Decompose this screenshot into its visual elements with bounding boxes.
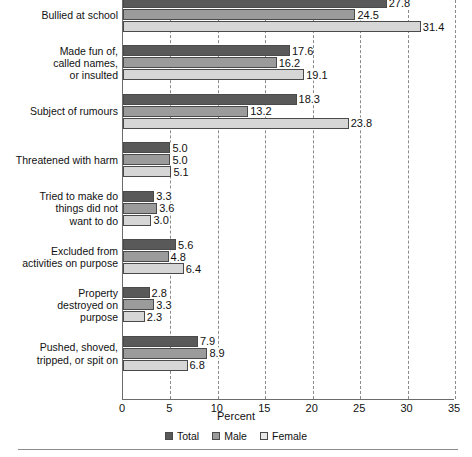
category-label: Threatened with harm [0, 154, 118, 166]
bar-total [123, 336, 198, 347]
bar-value-label: 5.0 [170, 154, 187, 165]
bar-value-label: 6.4 [184, 263, 201, 274]
bar-value-label: 7.9 [198, 336, 215, 347]
x-axis-title: Percent [0, 410, 472, 422]
bar-row: 2.3 [123, 311, 454, 322]
bar-row: 3.0 [123, 215, 454, 226]
bar-row: 3.3 [123, 191, 454, 202]
bar-value-label: 27.8 [387, 0, 410, 8]
footer-divider [18, 449, 458, 450]
legend-swatch-icon [212, 432, 220, 440]
bar-value-label: 24.5 [355, 9, 378, 20]
bar-row: 31.4 [123, 21, 454, 32]
legend-label: Total [177, 430, 199, 442]
bar-group: 17.616.219.1 [123, 45, 454, 81]
bar-value-label: 2.3 [145, 311, 162, 322]
category-label: Tried to make do things did not want to … [0, 190, 118, 227]
bar-value-label: 5.6 [176, 239, 193, 250]
category-label: Made fun of, called names, or insulted [0, 45, 118, 82]
bar-group: 7.98.96.8 [123, 336, 454, 372]
bar-female [123, 263, 184, 274]
category-axis-labels: Bullied at schoolMade fun of, called nam… [0, 0, 118, 400]
bar-row: 13.2 [123, 106, 454, 117]
bar-row: 6.8 [123, 360, 454, 371]
bar-row: 27.8 [123, 0, 454, 8]
bar-female [123, 21, 421, 32]
bar-row: 8.9 [123, 348, 454, 359]
bar-male [123, 154, 170, 165]
bar-total [123, 0, 387, 8]
bar-value-label: 31.4 [421, 21, 444, 32]
bar-value-label: 6.8 [188, 360, 205, 371]
bar-row: 6.4 [123, 263, 454, 274]
category-label: Subject of rumours [0, 105, 118, 117]
bar-group: 5.64.86.4 [123, 239, 454, 275]
bar-row: 7.9 [123, 336, 454, 347]
bar-female [123, 118, 349, 129]
legend-label: Female [272, 430, 307, 442]
bar-value-label: 23.8 [349, 118, 372, 129]
bar-row: 5.0 [123, 142, 454, 153]
bar-male [123, 299, 154, 310]
bar-value-label: 19.1 [304, 69, 327, 80]
bar-group: 27.824.531.4 [123, 0, 454, 33]
bar-group: 2.83.32.3 [123, 287, 454, 323]
bar-value-label: 5.1 [171, 166, 188, 177]
bar-total [123, 142, 170, 153]
bar-male [123, 203, 157, 214]
bar-total [123, 239, 176, 250]
legend-item-male: Male [212, 430, 247, 442]
bar-value-label: 5.0 [170, 142, 187, 153]
bar-group: 18.313.223.8 [123, 94, 454, 130]
bar-row: 18.3 [123, 94, 454, 105]
bar-male [123, 348, 207, 359]
bar-female [123, 69, 304, 80]
bar-row: 16.2 [123, 57, 454, 68]
bar-value-label: 4.8 [169, 251, 186, 262]
bar-row: 17.6 [123, 45, 454, 56]
bar-row: 5.1 [123, 166, 454, 177]
plot-area: 27.824.531.417.616.219.118.313.223.85.05… [122, 0, 454, 400]
bar-value-label: 2.8 [150, 287, 167, 298]
category-label: Bullied at school [0, 8, 118, 20]
bar-value-label: 3.3 [154, 191, 171, 202]
bar-value-label: 18.3 [297, 94, 320, 105]
bar-male [123, 9, 355, 20]
bar-value-label: 17.6 [290, 45, 313, 56]
bar-male [123, 106, 248, 117]
chart-legend: TotalMaleFemale [0, 430, 472, 442]
bar-total [123, 94, 297, 105]
bar-male [123, 57, 277, 68]
bar-value-label: 8.9 [207, 348, 224, 359]
bar-female [123, 311, 145, 322]
bar-female [123, 360, 188, 371]
bar-row: 5.6 [123, 239, 454, 250]
bar-female [123, 215, 151, 226]
category-label: Property destroyed on purpose [0, 287, 118, 324]
bar-row: 24.5 [123, 9, 454, 20]
category-label: Excluded from activities on purpose [0, 244, 118, 268]
bar-row: 5.0 [123, 154, 454, 165]
bar-value-label: 3.3 [154, 299, 171, 310]
bar-chart: Bullied at schoolMade fun of, called nam… [0, 0, 472, 457]
legend-item-female: Female [260, 430, 307, 442]
legend-label: Male [224, 430, 247, 442]
bar-female [123, 166, 171, 177]
bar-group: 3.33.63.0 [123, 191, 454, 227]
bar-row: 3.3 [123, 299, 454, 310]
bar-value-label: 3.6 [157, 203, 174, 214]
gridline [455, 0, 456, 399]
bar-total [123, 287, 150, 298]
bar-value-label: 13.2 [248, 106, 271, 117]
legend-swatch-icon [165, 432, 173, 440]
category-label: Pushed, shoved, tripped, or spit on [0, 341, 118, 365]
bar-row: 4.8 [123, 251, 454, 262]
legend-item-total: Total [165, 430, 199, 442]
bar-total [123, 45, 290, 56]
bar-male [123, 251, 169, 262]
bar-value-label: 3.0 [151, 215, 168, 226]
bar-row: 3.6 [123, 203, 454, 214]
bar-row: 19.1 [123, 69, 454, 80]
bar-group: 5.05.05.1 [123, 142, 454, 178]
legend-swatch-icon [260, 432, 268, 440]
